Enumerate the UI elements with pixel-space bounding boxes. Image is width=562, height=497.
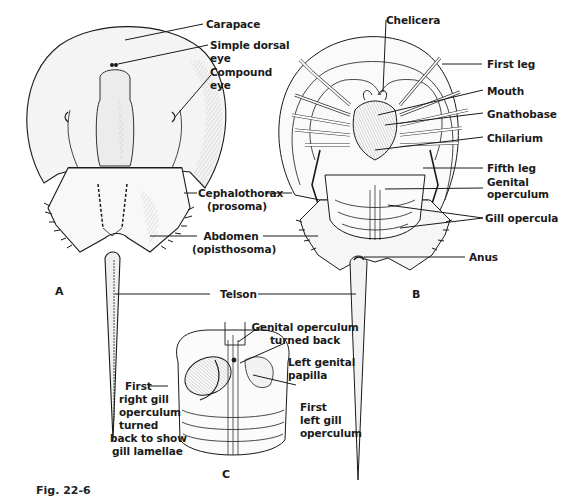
label-gnathobase: Gnathobase xyxy=(487,108,557,120)
label-first-right-gill-line2: right gill xyxy=(119,393,169,405)
label-anus: Anus xyxy=(469,251,498,263)
label-first-right-gill-line5: back to show xyxy=(110,432,187,444)
label-telson: Telson xyxy=(220,288,257,300)
panel-label-b: B xyxy=(412,288,420,301)
label-genital-operculum-line2: operculum xyxy=(487,188,549,200)
label-simple-dorsal-eye-line2: eye xyxy=(210,52,231,64)
label-first-leg: First leg xyxy=(487,58,535,70)
label-carapace: Carapace xyxy=(206,18,260,30)
label-first-left-gill-line1: First xyxy=(300,401,327,413)
panel-label-a: A xyxy=(55,285,64,298)
label-chelicera: Chelicera xyxy=(386,14,440,26)
label-genital-operculum-turned-back-line2: turned back xyxy=(250,334,360,346)
label-abdomen-line2: (opisthosoma) xyxy=(192,243,270,255)
label-left-genital-papilla-line2: papilla xyxy=(288,369,327,381)
label-first-left-gill-line2: left gill xyxy=(300,414,341,426)
label-genital-operculum-turned-back-line1: Genital operculum xyxy=(250,321,360,333)
label-mouth: Mouth xyxy=(487,85,524,97)
label-first-left-gill-line3: operculum xyxy=(300,427,362,439)
label-cephalothorax-line1: Cephalothorax xyxy=(198,187,276,199)
label-abdomen-line1: Abdomen xyxy=(196,230,266,242)
label-first-right-gill-line4: turned xyxy=(119,419,158,431)
label-fifth-leg: Fifth leg xyxy=(487,162,536,174)
label-cephalothorax-line2: (prosoma) xyxy=(198,200,276,212)
label-compound-eye-line2: eye xyxy=(210,79,231,91)
label-first-right-gill-line1: First xyxy=(125,380,152,392)
panel-label-c: C xyxy=(222,468,230,481)
figure-caption: Fig. 22-6 xyxy=(36,484,91,497)
label-first-right-gill-line6: gill lamellae xyxy=(112,445,183,457)
label-left-genital-papilla-line1: Left genital xyxy=(288,356,355,368)
label-gill-opercula: Gill opercula xyxy=(485,212,558,224)
label-compound-eye-line1: Compound xyxy=(210,66,272,78)
label-chilarium: Chilarium xyxy=(487,132,543,144)
label-genital-operculum-line1: Genital xyxy=(487,176,529,188)
label-first-right-gill-line3: operculum xyxy=(119,406,181,418)
label-simple-dorsal-eye-line1: Simple dorsal xyxy=(210,39,290,51)
